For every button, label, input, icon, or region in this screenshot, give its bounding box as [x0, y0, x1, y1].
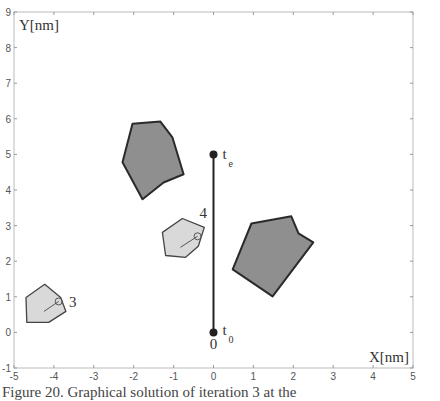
- x-axis-title: X[nm]: [369, 349, 409, 365]
- x-tick-label: -2: [129, 371, 138, 382]
- y-tick-label: 3: [5, 221, 11, 232]
- y-tick-label: 6: [5, 114, 11, 125]
- y-tick-label: 7: [5, 78, 11, 89]
- y-tick-label: 0: [5, 327, 11, 338]
- origin-label: 0: [210, 336, 218, 352]
- x-tick-label: 4: [370, 371, 376, 382]
- x-tick-label: -4: [49, 371, 58, 382]
- figure-caption: Figure 20. Graphical solution of iterati…: [2, 384, 297, 401]
- trajectory-end-point: [210, 150, 218, 158]
- x-tick-label: 0: [211, 371, 217, 382]
- y-tick-label: 1: [5, 292, 11, 303]
- y-tick-label: 2: [5, 256, 11, 267]
- x-tick-label: 2: [291, 371, 297, 382]
- te-subscript: e: [229, 158, 234, 169]
- y-tick-label: -1: [2, 363, 11, 374]
- y-axis-title: Y[nm]: [19, 17, 59, 33]
- y-tick-label: 8: [5, 43, 11, 54]
- x-tick-label: 5: [410, 371, 416, 382]
- trajectory-start-point: [210, 328, 218, 336]
- x-tick-label: 1: [251, 371, 257, 382]
- robot-4-label: 4: [200, 205, 208, 221]
- x-tick-label: 3: [330, 371, 336, 382]
- x-tick-label: -1: [169, 371, 178, 382]
- t0-subscript: 0: [229, 334, 234, 345]
- y-tick-label: 4: [5, 185, 11, 196]
- y-tick-label: 9: [5, 7, 11, 18]
- robot-3-label: 3: [69, 294, 77, 310]
- x-tick-label: -3: [89, 371, 98, 382]
- y-tick-label: 5: [5, 149, 11, 160]
